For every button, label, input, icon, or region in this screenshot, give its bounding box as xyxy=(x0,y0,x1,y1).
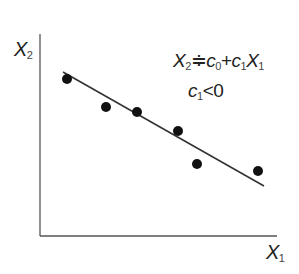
data-point xyxy=(101,102,111,112)
scatter-plot xyxy=(0,0,299,274)
eq-approx-symbol: ≑ xyxy=(191,50,207,71)
y-axis-label: X2 xyxy=(14,38,32,61)
data-point xyxy=(132,107,142,117)
x-axis-label-base: X xyxy=(266,241,279,263)
data-point xyxy=(192,159,202,169)
y-axis-label-base: X xyxy=(14,38,27,60)
eq-x2: X xyxy=(173,50,185,71)
data-point xyxy=(173,126,183,136)
eq-plus: + xyxy=(221,50,232,71)
data-point xyxy=(253,166,263,176)
regression-line xyxy=(63,72,264,186)
eq-x1: X xyxy=(246,50,258,71)
x-axis-label-sub: 1 xyxy=(279,252,285,264)
y-axis-label-sub: 2 xyxy=(27,49,33,61)
slope-condition: c1<0 xyxy=(188,80,223,102)
x-axis-label: X1 xyxy=(266,241,284,264)
regression-equation: X2≑c0+c1X1 xyxy=(173,49,264,72)
data-point xyxy=(62,74,72,84)
eq-x1-sub: 1 xyxy=(258,60,264,72)
eq-c0: c xyxy=(206,50,215,71)
cond-relation: <0 xyxy=(203,80,224,101)
cond-c1: c xyxy=(188,80,197,101)
eq-c1: c xyxy=(232,50,241,71)
